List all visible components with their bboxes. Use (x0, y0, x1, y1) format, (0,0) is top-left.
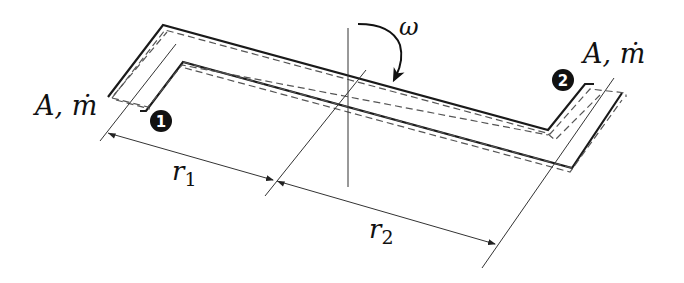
inlet-label: A, ṁ (32, 90, 97, 121)
pipe-dashed-contour (112, 30, 626, 168)
pipe-outer-wall (108, 25, 594, 130)
pipe-dashed-inner (114, 32, 622, 172)
outlet-label: A, ṁ (580, 38, 645, 69)
r2-label: r2 (369, 214, 394, 248)
station-2-badge: 2 (552, 69, 574, 91)
omega-label: ω (399, 13, 419, 41)
omega-rotation-arrow (358, 24, 401, 76)
r1-label: r1 (172, 156, 197, 190)
svg-text:1: 1 (156, 113, 166, 131)
pipe-inner-wall (140, 62, 622, 168)
svg-text:2: 2 (558, 72, 568, 90)
station-1-badge: 1 (150, 110, 172, 132)
pipe-diagram: ω A, ṁ A, ṁ r1 r2 1 2 (0, 0, 684, 283)
